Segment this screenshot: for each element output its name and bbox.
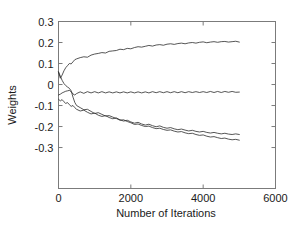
y-tick-label: 0.2 (38, 37, 53, 49)
x-axis-title: Number of Iterations (116, 207, 216, 219)
x-tick-label: 0 (55, 192, 61, 204)
y-tick-label: 0 (47, 79, 53, 91)
y-tick-label: -0.1 (35, 100, 54, 112)
y-tick-label: -0.2 (35, 121, 54, 133)
series-line-weight-1 (59, 41, 240, 78)
weights-line-chart: 0200040006000 -0.3-0.2-0.100.10.20.3 Num… (0, 0, 300, 232)
y-tick-label: -0.3 (35, 142, 54, 154)
y-tick-label: 0.3 (38, 16, 53, 28)
x-tick-label: 2000 (119, 192, 143, 204)
axis-tick-marks (59, 22, 276, 189)
y-tick-label: 0.1 (38, 58, 53, 70)
series-line-weight-2 (59, 90, 240, 95)
plot-frame (59, 22, 276, 189)
y-axis-title: Weights (6, 85, 18, 125)
x-tick-label: 4000 (191, 192, 215, 204)
chart-figure: 0200040006000 -0.3-0.2-0.100.10.20.3 Num… (0, 0, 300, 232)
x-axis-tick-labels: 0200040006000 (55, 192, 287, 204)
series-line-weight-4 (59, 99, 240, 134)
data-series-group (59, 41, 240, 140)
x-tick-label: 6000 (263, 192, 287, 204)
y-axis-tick-labels: -0.3-0.2-0.100.10.20.3 (35, 16, 54, 154)
series-line-weight-3 (59, 72, 240, 140)
